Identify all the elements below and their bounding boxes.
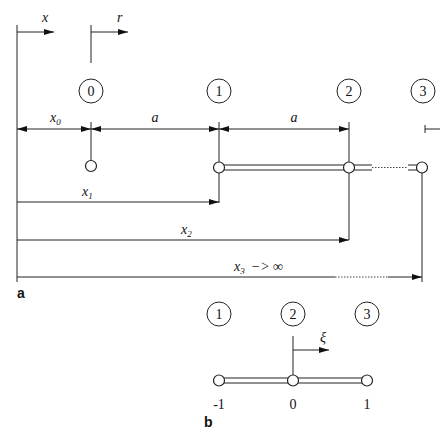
dim-x3-label: x3−> ∞ bbox=[233, 259, 283, 276]
node-label-0: 0 bbox=[79, 79, 103, 103]
node-b-3 bbox=[362, 375, 373, 386]
node-label-3: 3 bbox=[411, 79, 435, 103]
dim-x1-label: x1 bbox=[81, 184, 93, 201]
svg-text:1: 1 bbox=[216, 307, 223, 322]
node-label-1: 1 bbox=[207, 79, 231, 103]
tick-one: 1 bbox=[364, 397, 371, 412]
node-b-2 bbox=[288, 375, 299, 386]
panel-b: 1 2 3 ξ -1 0 1 b bbox=[204, 302, 379, 430]
dim-a1-label: a bbox=[152, 110, 159, 125]
dim-x2-label: x2 bbox=[180, 222, 192, 239]
node-label-b-2: 2 bbox=[281, 302, 305, 326]
dim-a2-label: a bbox=[291, 110, 298, 125]
svg-text:3: 3 bbox=[420, 84, 427, 99]
svg-text:2: 2 bbox=[290, 307, 297, 322]
panel-a-label: a bbox=[17, 285, 25, 301]
node-0 bbox=[86, 161, 97, 172]
xi-axis-label: ξ bbox=[320, 330, 326, 345]
panel-a: x r 0 1 2 3 x0 a a bbox=[17, 10, 440, 301]
node-label-b-1: 1 bbox=[207, 302, 231, 326]
node-b-1 bbox=[214, 375, 225, 386]
element-bar bbox=[219, 165, 418, 170]
tick-zero: 0 bbox=[290, 397, 297, 412]
svg-text:0: 0 bbox=[88, 84, 95, 99]
node-3 bbox=[417, 162, 428, 173]
x-axis-label: x bbox=[41, 10, 49, 25]
node-2 bbox=[344, 162, 355, 173]
panel-b-label: b bbox=[204, 414, 213, 430]
svg-text:2: 2 bbox=[346, 84, 353, 99]
element-diagram: x r 0 1 2 3 x0 a a bbox=[0, 0, 446, 436]
dim-x0-label: x0 bbox=[49, 110, 61, 127]
tick-minus-one: -1 bbox=[213, 397, 225, 412]
node-label-b-3: 3 bbox=[355, 302, 379, 326]
node-label-2: 2 bbox=[337, 79, 361, 103]
svg-text:1: 1 bbox=[216, 84, 223, 99]
r-axis-label: r bbox=[117, 10, 123, 25]
node-1 bbox=[214, 162, 225, 173]
svg-text:3: 3 bbox=[364, 307, 371, 322]
